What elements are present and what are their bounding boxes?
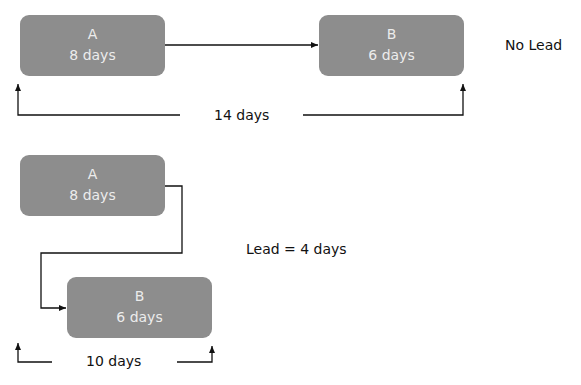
task-b-name: B bbox=[319, 24, 464, 45]
task-a-duration: 8 days bbox=[20, 45, 165, 66]
duration-bracket-right-no-lead bbox=[303, 84, 463, 115]
task-a-name: A bbox=[20, 164, 165, 185]
duration-bracket-right-with-lead bbox=[177, 346, 212, 362]
task-a-box-no-lead: A 8 days bbox=[20, 15, 165, 76]
task-b-box-with-lead: B 6 days bbox=[67, 277, 212, 338]
task-a-box-with-lead: A 8 days bbox=[20, 155, 165, 216]
task-b-duration: 6 days bbox=[67, 307, 212, 328]
duration-bracket-left-no-lead bbox=[18, 84, 180, 115]
task-b-duration: 6 days bbox=[319, 45, 464, 66]
no-lead-caption: No Lead bbox=[505, 37, 562, 53]
task-a-duration: 8 days bbox=[20, 185, 165, 206]
total-duration-with-lead: 10 days bbox=[86, 353, 141, 369]
lead-caption: Lead = 4 days bbox=[246, 241, 347, 257]
total-duration-no-lead: 14 days bbox=[214, 107, 269, 123]
task-b-name: B bbox=[67, 286, 212, 307]
task-a-name: A bbox=[20, 24, 165, 45]
duration-bracket-left-with-lead bbox=[18, 343, 52, 362]
task-b-box-no-lead: B 6 days bbox=[319, 15, 464, 76]
